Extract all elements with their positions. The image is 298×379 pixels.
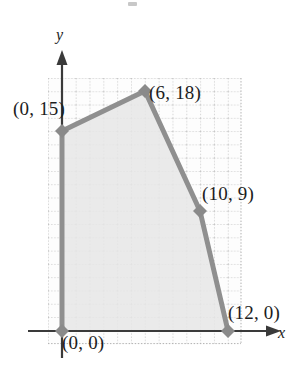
coordinate-plane-figure: (0, 15) (6, 18) (10, 9) (12, 0) (0, 0) y… xyxy=(0,0,298,379)
vertex-label-6-18: (6, 18) xyxy=(149,83,201,102)
vertex-label-0-15: (0, 15) xyxy=(13,99,65,118)
vertex-label-0-0: (0, 0) xyxy=(62,333,104,352)
y-axis-label: y xyxy=(56,27,63,43)
vertex-label-12-0: (12, 0) xyxy=(228,303,280,322)
vertex-label-10-9: (10, 9) xyxy=(202,184,254,203)
x-axis-label: x xyxy=(278,325,285,341)
